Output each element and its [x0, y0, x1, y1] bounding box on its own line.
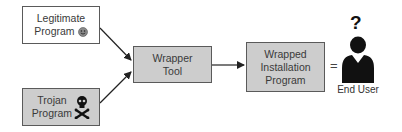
- wrapper-label-line1: Wrapper: [152, 52, 192, 65]
- smiley-icon: [78, 27, 88, 37]
- arrow-legitimate-to-wrapper: [100, 28, 131, 60]
- trojan-program-box: Trojan Program: [22, 88, 100, 126]
- wrapper-tool-box: Wrapper Tool: [133, 46, 212, 83]
- wrapped-label-line3: Program: [260, 74, 310, 87]
- wrapped-label-line2: Installation: [260, 61, 310, 74]
- end-user-label: End User: [333, 84, 383, 95]
- trojan-label-line2: Program: [32, 107, 72, 120]
- wrapped-label-line1: Wrapped: [260, 48, 310, 61]
- wrapper-label-line2: Tool: [152, 65, 192, 78]
- skull-crossbones-icon: [74, 95, 90, 119]
- trojan-label-line1: Trojan: [32, 94, 72, 107]
- user-icon: [340, 36, 376, 84]
- legitimate-label-line1: Legitimate: [34, 12, 87, 25]
- arrow-trojan-to-wrapper: [100, 72, 131, 103]
- wrapped-installation-program-box: Wrapped Installation Program: [246, 42, 325, 92]
- question-mark: ?: [350, 12, 362, 34]
- equals-sign: =: [330, 58, 338, 73]
- legitimate-label-line2: Program: [34, 25, 74, 38]
- legitimate-program-box: Legitimate Program: [22, 6, 100, 44]
